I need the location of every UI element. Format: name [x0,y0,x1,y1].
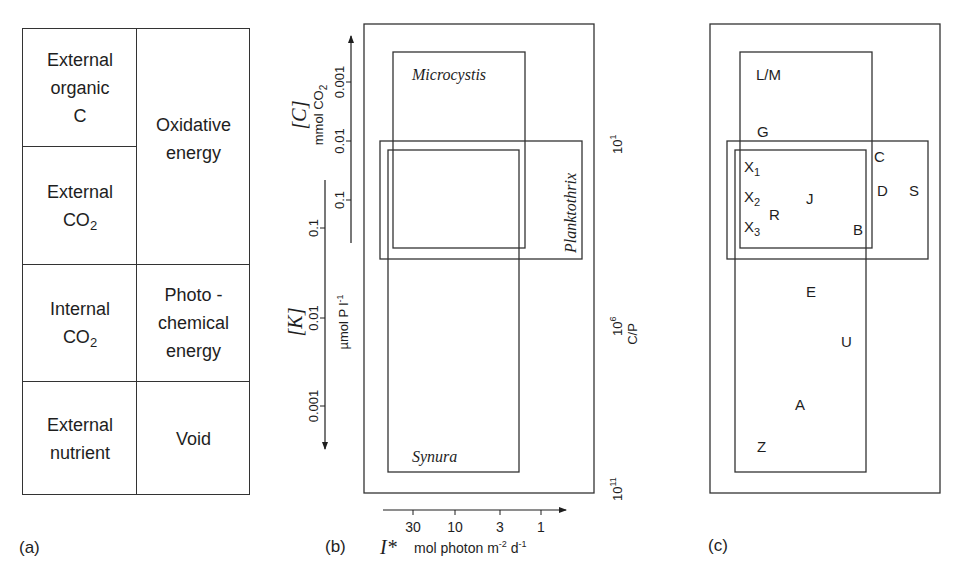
axis-cp-tick-label: 101 [608,135,625,154]
axis-c-unit: mmol CO2 [311,84,329,145]
point-id: Z [757,438,766,455]
panel-label-c: (c) [708,536,728,555]
panel-label-b: (b) [325,537,346,556]
point-id: A [795,396,805,413]
tick-base: 10 [610,140,625,154]
axis-k-symbol: [K] [284,308,306,337]
superscript: -1 [519,539,527,549]
strategy-point-label: C [874,148,885,165]
strategy-point-label: Z [757,438,766,455]
axis-k-unit: µmol P l-1 [335,294,351,349]
tick-base: 10 [610,487,625,501]
point-id: J [806,190,814,207]
point-id: L/M [756,66,781,83]
axis-k-tick-label: 0.001 [306,390,321,423]
axis-c-tick-label: 0.1 [332,191,347,209]
superscript: 1 [608,135,618,140]
strategy-point-label: J [806,190,814,207]
point-id: C [874,148,885,165]
point-id: R [769,206,780,223]
superscript: 11 [608,477,618,486]
axis-cp-tick-label: 106 [608,317,625,336]
superscript: -1 [335,294,345,302]
axis-i-tick-label: 1 [537,519,545,535]
strategy-point-label: D [877,182,888,199]
point-id: B [853,221,863,238]
point-id: X [744,158,754,175]
axis-i-tick-label: 30 [405,519,421,535]
point-id: S [909,182,919,199]
subscript: 3 [754,226,760,238]
axis-c: 0.001 0.01 0.1 [C] mmol CO2 [288,36,351,243]
strategy-point-label: R [769,206,780,223]
axis-c-unit-text: mmol CO [311,90,326,145]
strategy-point-label: S [909,182,919,199]
superscript: 6 [608,317,618,322]
label-microcystis: Microcystis [411,66,486,84]
superscript: -2 [499,539,507,549]
strategy-point-label: X2 [744,188,760,208]
tick-base: 10 [610,322,625,336]
axis-i-tick-label: 3 [496,519,504,535]
strategy-point-label: A [795,396,805,413]
axis-i-tick-label: 10 [447,519,463,535]
strategy-point-label: X3 [744,218,760,238]
axis-cp: 101 106 C/P 1011 [608,135,640,501]
axis-k-tick-label: 0.1 [306,219,321,237]
point-id: D [877,182,888,199]
label-synura: Synura [412,448,457,466]
axis-cp-tick-label: 1011 [608,477,625,501]
strategy-point-label: G [757,123,769,140]
strategy-point-label: B [853,221,863,238]
point-id: X [744,188,754,205]
subscript: 2 [754,196,760,208]
strategy-point-label: X1 [744,158,760,178]
axis-c-tick-label: 0.001 [332,66,347,99]
strategy-point-label: U [841,333,852,350]
figure-canvas: Microcystis Planktothrix Synura 0.001 0.… [0,0,960,587]
axis-k: 0.1 0.01 0.001 [K] µmol P l-1 [284,180,351,449]
subscript: 2 [318,84,329,90]
axis-cp-label: C/P [625,323,640,345]
axis-c-symbol: [C] [288,101,310,130]
axis-i-symbol: I* [379,536,397,558]
strategy-point-label: L/M [756,66,781,83]
synura-box [388,150,519,472]
planktothrix-box [380,141,582,259]
subscript: 1 [754,166,760,178]
axis-k-unit-text: µmol P l [336,302,351,349]
panel-c-points: L/MGCX1DSX2JRX3BEUAZ [744,66,919,455]
axis-k-tick-label: 0.01 [306,305,321,330]
axis-c-tick-label: 0.01 [332,128,347,153]
label-planktothrix: Planktothrix [562,173,579,254]
strategy-point-label: E [806,283,816,300]
axis-i-unit: mol photon m-2 d-1 [414,539,527,556]
axis-i: 30 10 3 1 I* mol photon m-2 d-1 [379,510,566,558]
point-id: G [757,123,769,140]
point-id: U [841,333,852,350]
point-id: E [806,283,816,300]
axis-i-unit-text: d [507,540,519,556]
axis-i-unit-text: mol photon m [414,540,499,556]
point-id: X [744,218,754,235]
